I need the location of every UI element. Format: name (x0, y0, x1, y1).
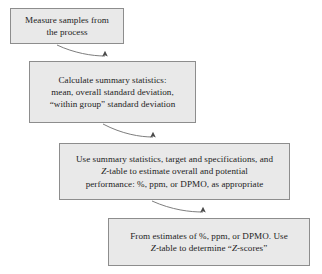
flow-node-calculate[interactable]: Calculate summary statistics: mean, over… (29, 61, 196, 123)
flow-node-estimate-label: Use summary statistics, target and speci… (72, 153, 277, 190)
flow-node-zscores[interactable]: From estimates of %, ppm, or DPMO. Use Z… (108, 218, 310, 266)
connector-calculate-to-estimate (103, 124, 153, 137)
connector-measure-to-calculate (57, 45, 105, 56)
flow-node-measure[interactable]: Measure samples from the process (10, 8, 124, 44)
connector-estimate-to-zscores (152, 201, 203, 212)
flow-node-measure-label: Measure samples from the process (21, 14, 113, 38)
flow-node-calculate-label: Calculate summary statistics: mean, over… (46, 74, 180, 111)
flow-node-estimate[interactable]: Use summary statistics, target and speci… (59, 143, 290, 200)
flow-node-zscores-label: From estimates of %, ppm, or DPMO. Use Z… (126, 230, 292, 254)
flowchart-diagram: Measure samples from the process Calcula… (0, 0, 322, 274)
